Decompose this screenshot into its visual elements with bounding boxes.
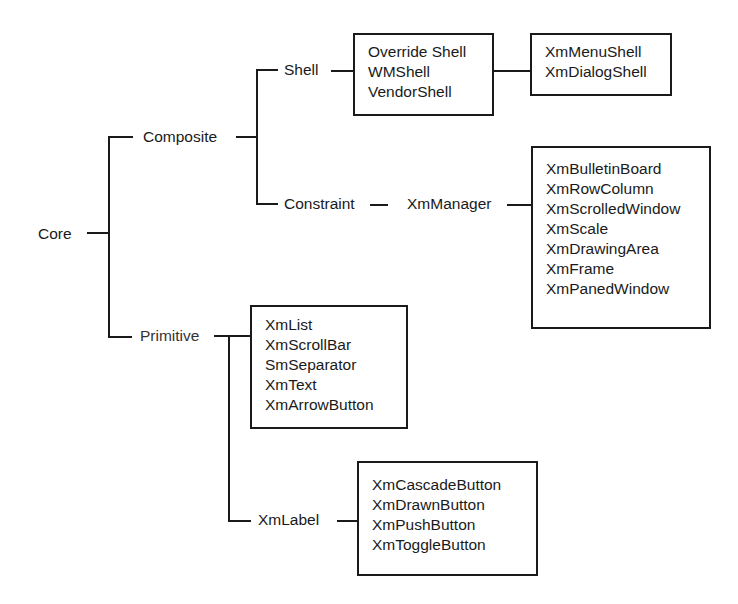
class-xmrowcolumn: XmRowColumn xyxy=(546,179,709,199)
node-primitive: Primitive xyxy=(140,327,199,345)
node-xmmanager: XmManager xyxy=(407,195,491,213)
connector-primitive xyxy=(214,335,250,337)
bracket-core xyxy=(108,136,110,337)
class-xmtogglebutton: XmToggleButton xyxy=(372,535,536,555)
connector-to-constraint xyxy=(256,203,278,205)
class-xmcascadebutton: XmCascadeButton xyxy=(372,475,536,495)
class-xmscrollbar: XmScrollBar xyxy=(265,335,406,355)
class-xmtext: XmText xyxy=(265,375,406,395)
class-xmdrawnbutton: XmDrawnButton xyxy=(372,495,536,515)
connector-xmmanager xyxy=(507,204,532,206)
connector-shell xyxy=(331,70,353,72)
bracket-composite xyxy=(256,69,258,205)
connector-to-shell xyxy=(256,69,278,71)
class-xmpanedwindow: XmPanedWindow xyxy=(546,279,709,299)
class-xmmenushell: XmMenuShell xyxy=(545,42,670,62)
class-xmdialogshell: XmDialogShell xyxy=(545,62,670,82)
connector-to-xmlabel xyxy=(228,520,251,522)
node-constraint: Constraint xyxy=(284,195,355,213)
bracket-primitive xyxy=(228,335,230,521)
connector-constraint xyxy=(370,204,388,206)
box-shell-classes: Override Shell WMShell VendorShell xyxy=(353,33,494,116)
class-xmbulletinboard: XmBulletinBoard xyxy=(546,159,709,179)
class-xmpushbutton: XmPushButton xyxy=(372,515,536,535)
node-composite: Composite xyxy=(143,128,217,146)
class-xmscrolledwindow: XmScrolledWindow xyxy=(546,199,709,219)
class-xmscale: XmScale xyxy=(546,219,709,239)
connector-to-composite xyxy=(108,136,133,138)
connector-to-primitive xyxy=(108,336,132,338)
connector-composite xyxy=(236,136,257,138)
node-core: Core xyxy=(38,225,72,243)
box-primitive-subclasses: XmList XmScrollBar SmSeparator XmText Xm… xyxy=(250,305,408,429)
class-vendorshell: VendorShell xyxy=(368,82,492,102)
node-shell: Shell xyxy=(284,61,318,79)
class-xmdrawingarea: XmDrawingArea xyxy=(546,239,709,259)
node-xmlabel: XmLabel xyxy=(258,511,319,529)
box-vendor-subclasses: XmMenuShell XmDialogShell xyxy=(530,33,672,96)
class-smseparator: SmSeparator xyxy=(265,355,406,375)
class-xmframe: XmFrame xyxy=(546,259,709,279)
class-wmshell: WMShell xyxy=(368,62,492,82)
connector-core xyxy=(87,232,109,234)
class-xmlist: XmList xyxy=(265,315,406,335)
class-override-shell: Override Shell xyxy=(368,42,492,62)
connector-xmlabel xyxy=(337,520,358,522)
connector-vendor xyxy=(493,70,531,72)
box-manager-subclasses: XmBulletinBoard XmRowColumn XmScrolledWi… xyxy=(531,146,711,329)
class-xmarrowbutton: XmArrowButton xyxy=(265,395,406,415)
box-label-subclasses: XmCascadeButton XmDrawnButton XmPushButt… xyxy=(357,461,538,576)
